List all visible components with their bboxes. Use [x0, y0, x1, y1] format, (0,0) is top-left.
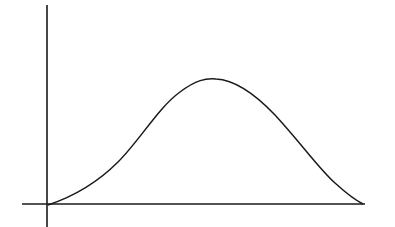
bell-curve	[48, 79, 363, 205]
diagram-canvas	[0, 0, 395, 227]
